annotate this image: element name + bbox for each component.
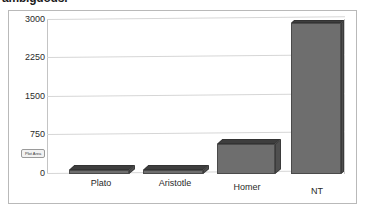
bar-homer[interactable] [217, 144, 275, 174]
chart-title-strip: ambiguous. [0, 0, 366, 7]
y-tick-3000: 3000 [11, 15, 45, 24]
y-tick-2250: 2250 [11, 53, 45, 62]
y-tick-750: 750 [11, 130, 45, 139]
bar-homer-side [275, 139, 281, 174]
plot-area[interactable] [47, 19, 345, 174]
x-axis-labels: Plato Aristotle Homer NT [47, 178, 345, 198]
x-tick-aristotle: Aristotle [143, 178, 207, 188]
bar-aristotle-front [143, 170, 203, 174]
page-title: ambiguous. [2, 0, 67, 5]
y-tick-1500: 1500 [11, 92, 45, 101]
x-tick-plato: Plato [71, 178, 131, 188]
chart-frame[interactable]: 3000 2250 1500 750 0 [8, 10, 357, 204]
bar-nt[interactable] [291, 23, 341, 174]
bar-homer-front [217, 144, 275, 174]
bar-plato[interactable] [69, 170, 129, 174]
bar-nt-side [341, 20, 344, 174]
bar-plato-front [69, 170, 129, 174]
y-tick-0: 0 [11, 169, 45, 178]
x-tick-nt: NT [289, 186, 345, 196]
bar-aristotle[interactable] [143, 170, 203, 174]
plot-right-edge [344, 19, 345, 174]
bar-nt-front [291, 23, 341, 174]
plot-area-tooltip: Plot Area [21, 149, 45, 158]
x-tick-homer: Homer [217, 182, 277, 192]
